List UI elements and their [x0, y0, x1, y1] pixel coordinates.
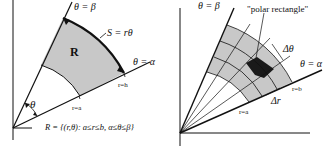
polar-region-diagram: θ = β S = rθ R θ = α r=h r=a θ R = {(r,θ… — [0, 0, 328, 146]
label-theta-alpha-right: θ = α — [300, 58, 323, 69]
set-definition: R = {(r,θ): a≤r≤b, α≤θ≤β} — [44, 122, 134, 132]
left-panel: θ = β S = rθ R θ = α r=h r=a θ R = {(r,θ… — [13, 0, 156, 140]
label-r-a-right: r=a — [239, 108, 249, 116]
label-r-b-right: r=b — [292, 85, 302, 93]
label-r-b: r=h — [118, 81, 128, 89]
label-delta-theta: Δθ — [282, 43, 294, 54]
diagram-canvas: θ = β S = rθ R θ = α r=h r=a θ R = {(r,θ… — [0, 0, 328, 146]
label-angle-theta: θ — [30, 98, 36, 110]
label-arc-length: S = rθ — [107, 27, 133, 38]
label-theta-beta: θ = β — [74, 1, 96, 12]
label-delta-r: Δr — [270, 95, 281, 106]
right-panel: θ = β "polar rectangle" Δθ θ = α r=b Δr … — [180, 0, 323, 146]
label-region: R — [70, 45, 79, 59]
label-theta-alpha: θ = α — [133, 56, 156, 67]
label-polar-rectangle: "polar rectangle" — [247, 4, 308, 14]
label-r-a: r=a — [72, 104, 82, 112]
label-theta-beta-right: θ = β — [198, 0, 220, 11]
